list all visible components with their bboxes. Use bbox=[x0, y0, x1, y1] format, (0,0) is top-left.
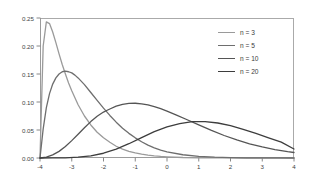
x-axis-tick-label: 3 bbox=[261, 163, 264, 170]
legend-item: n = 10 bbox=[218, 52, 294, 65]
legend-line-swatch bbox=[218, 32, 235, 33]
x-axis-tick-label: 0 bbox=[165, 163, 168, 170]
x-axis-tick-label: 1 bbox=[197, 163, 200, 170]
x-axis-tick-label: 2 bbox=[229, 163, 232, 170]
x-axis-tick-label: -4 bbox=[37, 163, 43, 170]
legend-label: n = 20 bbox=[240, 68, 259, 75]
legend-label: n = 10 bbox=[240, 55, 259, 62]
legend-label: n = 5 bbox=[240, 42, 255, 49]
legend-label: n = 3 bbox=[240, 29, 255, 36]
x-axis-tick-label: -1 bbox=[132, 163, 138, 170]
x-axis-tick-label: -2 bbox=[101, 163, 107, 170]
legend-line-swatch bbox=[218, 58, 235, 59]
x-axis-tick-label: 4 bbox=[292, 163, 295, 170]
legend-item: n = 3 bbox=[218, 26, 294, 39]
chart-container: 0.000.050.100.150.200.25 -4-3-2-101234 n… bbox=[0, 0, 310, 182]
legend-line-swatch bbox=[218, 71, 235, 72]
legend-item: n = 20 bbox=[218, 65, 294, 78]
chart-legend: n = 3n = 5n = 10n = 20 bbox=[218, 26, 294, 78]
legend-line-swatch bbox=[218, 45, 235, 46]
x-axis-tick-label: -3 bbox=[69, 163, 75, 170]
legend-item: n = 5 bbox=[218, 39, 294, 52]
